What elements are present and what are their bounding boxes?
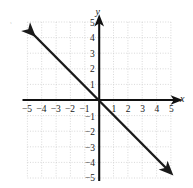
y-tick-label-2: 2 (90, 65, 95, 75)
x-tick-label-2: 2 (126, 105, 131, 115)
y-tick-label-neg4: −4 (85, 159, 95, 169)
y-tick-label-neg5: −5 (85, 174, 95, 184)
y-tick-label-neg1: −1 (85, 113, 95, 123)
coordinate-plane-figure: −5 −4 −3 −2 −1 1 2 3 4 5 1 2 3 4 5 −1 −2… (0, 0, 193, 188)
x-tick-label-3: 3 (140, 105, 145, 115)
y-tick-label-4: 4 (90, 34, 95, 44)
y-tick-label-1: 1 (90, 81, 95, 91)
y-tick-label-3: 3 (90, 50, 95, 60)
x-tick-label-1: 1 (112, 105, 117, 115)
x-axis-label: x (180, 94, 184, 104)
y-tick-label-neg3: −3 (85, 144, 95, 154)
x-tick-label-neg2: −2 (65, 105, 75, 115)
x-tick-label-neg3: −3 (51, 105, 61, 115)
x-tick-label-4: 4 (155, 105, 160, 115)
x-tick-label-5: 5 (169, 105, 174, 115)
y-tick-label-neg2: −2 (85, 128, 95, 138)
x-tick-label-neg5: −5 (22, 105, 32, 115)
y-axis-label: y (96, 7, 100, 17)
x-tick-label-neg4: −4 (36, 105, 46, 115)
y-tick-label-5: 5 (90, 19, 95, 29)
graph-canvas (0, 0, 193, 188)
